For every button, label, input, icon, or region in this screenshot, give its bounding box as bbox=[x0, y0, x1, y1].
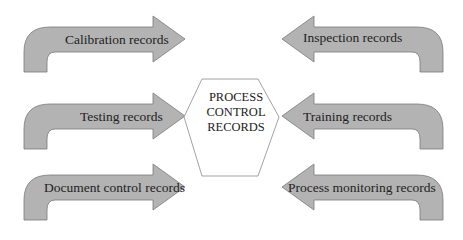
label-calibration-records: Calibration records bbox=[65, 33, 169, 47]
label-process-monitoring-records: Process monitoring records bbox=[288, 181, 436, 195]
center-title-line-3: RECORDS bbox=[196, 120, 276, 135]
label-inspection-records: Inspection records bbox=[303, 31, 402, 45]
label-testing-records: Testing records bbox=[80, 110, 163, 124]
center-title-line-2: CONTROL bbox=[196, 105, 276, 120]
label-document-control-records: Document control records bbox=[44, 181, 185, 195]
center-title: PROCESS CONTROL RECORDS bbox=[196, 90, 276, 135]
center-title-line-1: PROCESS bbox=[196, 90, 276, 105]
label-training-records: Training records bbox=[303, 110, 392, 124]
